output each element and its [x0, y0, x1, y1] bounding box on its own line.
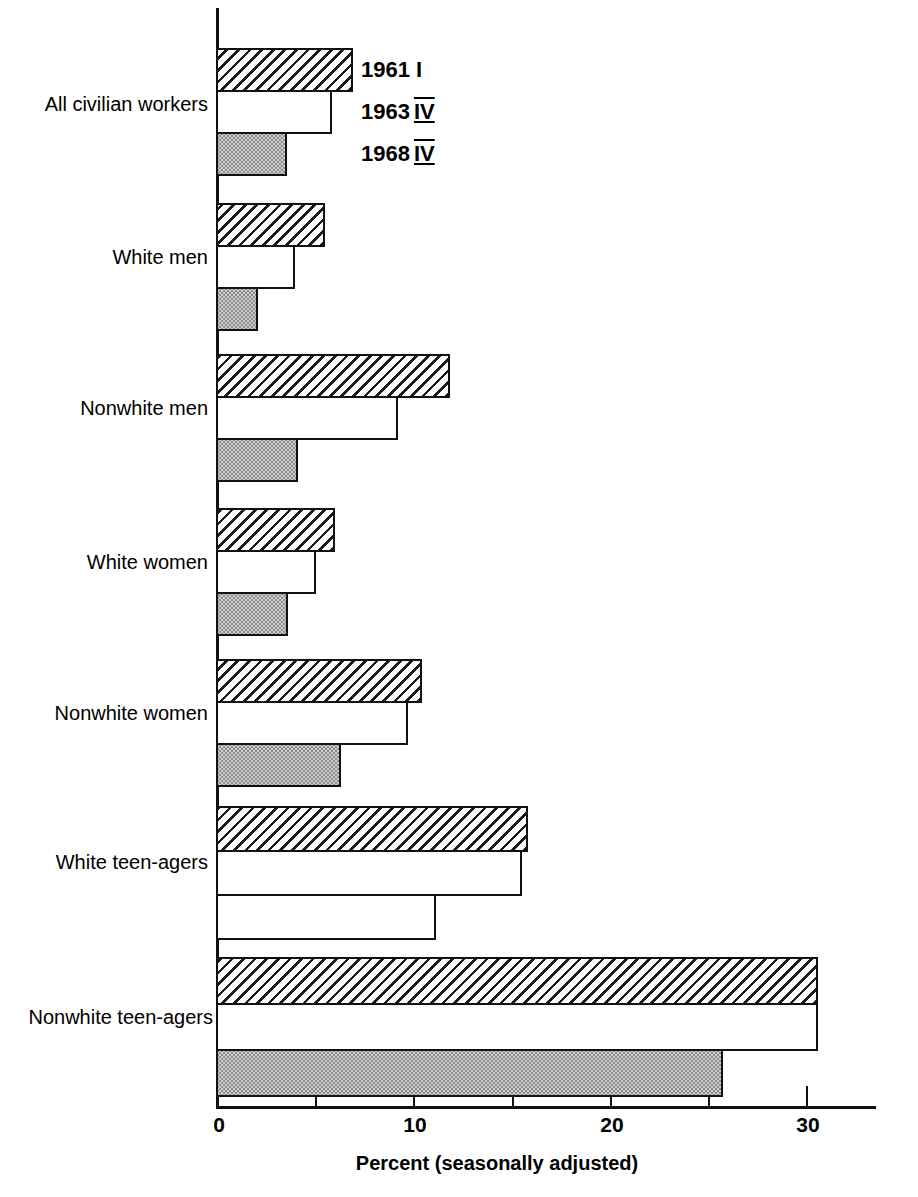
bar-nonwhite-teen-agers-1968 — [216, 1049, 723, 1097]
legend-label-1961-year: 1961 — [361, 57, 410, 82]
bar-white-men-1961 — [216, 203, 325, 247]
legend-item-1968: 1968IV — [361, 141, 436, 167]
bar-chart-plot: 0 10 20 30 Percent (seasonally adjusted)… — [0, 0, 918, 1197]
x-tick-label-20: 20 — [600, 1113, 623, 1137]
x-axis-title: Percent (seasonally adjusted) — [356, 1152, 638, 1175]
x-tick-30 — [806, 1086, 808, 1106]
legend-label-1968-quarter: IV — [413, 141, 436, 166]
bar-white-women-1963 — [216, 550, 316, 594]
category-label-nonwhite-men: Nonwhite men — [8, 397, 208, 420]
bar-white-women-1961 — [216, 508, 335, 552]
bar-nonwhite-women-1961 — [216, 659, 422, 703]
category-label-white-men: White men — [8, 246, 208, 269]
category-label-all-civilian-workers: All civilian workers — [8, 93, 208, 116]
legend-label-1968-year: 1968 — [361, 141, 410, 166]
bar-nonwhite-men-1961 — [216, 354, 450, 398]
x-axis-line — [216, 1106, 876, 1109]
bar-nonwhite-teen-agers-1961 — [216, 957, 818, 1005]
bar-all-civilian-workers-1968 — [216, 132, 287, 176]
legend-item-1963: 1963IV — [361, 99, 436, 125]
category-label-nonwhite-teen-agers: Nonwhite teen-agers — [8, 1006, 213, 1029]
legend-label-1963-quarter: IV — [413, 99, 436, 124]
legend-item-1961: 1961I — [361, 57, 423, 83]
bar-white-men-1963 — [216, 245, 295, 289]
bar-nonwhite-women-1963 — [216, 701, 408, 745]
bar-all-civilian-workers-1961 — [216, 48, 353, 92]
bar-white-teen-agers-1968 — [216, 894, 436, 940]
bar-nonwhite-women-1968 — [216, 743, 341, 787]
x-tick-label-10: 10 — [403, 1113, 426, 1137]
legend-label-1963-year: 1963 — [361, 99, 410, 124]
bar-nonwhite-men-1963 — [216, 396, 398, 440]
x-tick-label-0: 0 — [213, 1113, 225, 1137]
bar-white-teen-agers-1963 — [216, 850, 522, 896]
chart-page: 0 10 20 30 Percent (seasonally adjusted)… — [0, 0, 918, 1197]
bar-all-civilian-workers-1963 — [216, 90, 332, 134]
bar-white-men-1968 — [216, 287, 258, 331]
legend-label-1961-quarter: I — [415, 57, 423, 82]
bar-nonwhite-teen-agers-1963 — [216, 1003, 818, 1051]
bar-white-women-1968 — [216, 592, 288, 636]
category-label-nonwhite-women: Nonwhite women — [8, 702, 208, 725]
category-label-white-teen-agers: White teen-agers — [8, 851, 208, 874]
bar-nonwhite-men-1968 — [216, 438, 298, 482]
category-label-white-women: White women — [8, 551, 208, 574]
x-tick-label-30: 30 — [796, 1113, 819, 1137]
bar-white-teen-agers-1961 — [216, 806, 528, 852]
